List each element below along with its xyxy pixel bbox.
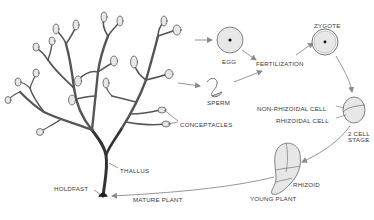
arrow-young-to-mature — [112, 177, 274, 196]
arrow-sperm-to-fertilization — [234, 71, 262, 82]
thallus-label: THALLUS — [120, 168, 149, 174]
egg-label: EGG — [222, 59, 236, 65]
arrow-egg-to-fertilization — [242, 50, 256, 60]
egg-illustration — [217, 27, 243, 53]
life-cycle-diagram: EGG ZYGOTE FERTILIZATION SPERM NON-RHIZO… — [0, 0, 374, 220]
sperm-label: SPERM — [207, 100, 230, 106]
zygote-label: ZYGOTE — [314, 23, 341, 29]
conceptacles-label: CONCEPTACLES — [180, 122, 232, 128]
fertilization-label: FERTILIZATION — [256, 61, 304, 67]
arrow-plant-to-sperm — [178, 83, 200, 86]
sperm-illustration — [207, 78, 222, 96]
zygote-illustration — [312, 29, 338, 55]
rhizoid-label: RHIZOID — [293, 182, 320, 188]
arrow-zygote-to-two-cell — [336, 56, 352, 92]
holdfast-label: HOLDFAST — [54, 186, 88, 192]
young-plant-label: YOUNG PLANT — [250, 196, 297, 202]
two-cell-stage-label: 2 CELL STAGE — [348, 131, 374, 143]
mature-plant-illustration — [5, 12, 181, 196]
mature-plant-label: MATURE PLANT — [133, 197, 183, 203]
arrow-fertilization-to-zygote — [296, 43, 313, 55]
non-rhizoidal-cell-label: NON-RHIZOIDAL CELL — [257, 106, 326, 112]
two-cell-stage-illustration — [336, 97, 365, 123]
arrow-two-cell-to-young — [302, 126, 350, 162]
two-cell-stage-label-line2: STAGE — [348, 136, 370, 143]
rhizoidal-cell-label: RHIZOIDAL CELL — [276, 118, 329, 124]
